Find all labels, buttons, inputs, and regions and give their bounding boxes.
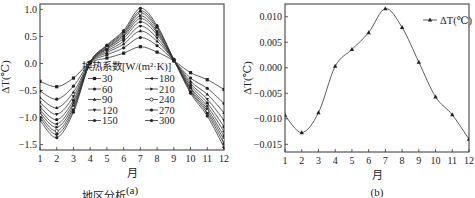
series-180 [38, 17, 225, 134]
marker-square [122, 52, 125, 55]
marker-triangle-left [55, 122, 58, 126]
marker-square [105, 56, 108, 59]
x-tick-label: 3 [71, 153, 76, 164]
legend-entry-label: 30 [102, 73, 113, 84]
y-tick-label: −0.015 [254, 139, 282, 150]
marker-dot [206, 87, 209, 90]
legend-entry-label: 270 [159, 105, 175, 116]
marker-triangle-left [138, 17, 141, 21]
x-tick-label: 8 [400, 155, 405, 166]
y-tick-label: 0.0 [25, 58, 38, 69]
x-tick-label: 6 [366, 155, 371, 166]
series-line [40, 16, 224, 136]
legend-entry-label: 210 [159, 84, 175, 95]
marker-dot [55, 98, 58, 101]
y-tick-label: −0.010 [254, 113, 282, 124]
x-tick-label: 8 [155, 153, 160, 164]
series-group [38, 7, 226, 149]
marker-dot [222, 146, 225, 149]
marker-dot [93, 87, 96, 90]
x-tick-label: 10 [431, 155, 441, 166]
series-line [285, 9, 469, 140]
x-tick-label: 4 [88, 153, 93, 164]
marker-dot [139, 36, 142, 39]
series-120 [38, 25, 226, 122]
y-axis-label: ΔT(℃) [0, 60, 12, 94]
marker-open-circle [55, 129, 58, 132]
marker-dot [189, 92, 192, 95]
figure: 1234567891011121.00.50.0−0.5−1.0−1.5月ΔT(… [0, 0, 475, 198]
legend-title: 换热系数[W/(m²·K)] [82, 60, 171, 73]
y-tick-label: 0.5 [25, 31, 38, 42]
marker-square [93, 77, 96, 80]
x-tick-label: 10 [186, 153, 196, 164]
x-tick-label: 9 [171, 153, 176, 164]
marker-square [72, 76, 75, 79]
series-line [40, 26, 224, 120]
series-300 [38, 7, 225, 149]
marker-dot [150, 108, 153, 111]
marker-square [139, 45, 142, 48]
marker-triangle [283, 113, 287, 117]
chart-panel-a: 1234567891011121.00.50.0−0.5−1.0−1.5月ΔT(… [0, 4, 229, 197]
marker-square [155, 51, 158, 54]
marker-dot [93, 119, 96, 122]
x-tick-label: 5 [104, 153, 109, 164]
marker-dot [206, 101, 209, 104]
y-tick-label: 0.005 [260, 37, 283, 48]
y-tick-label: −1.5 [19, 139, 37, 150]
y-tick-label: 0.000 [260, 62, 283, 73]
marker-triangle [383, 6, 387, 10]
legend-entry-label: 90 [102, 94, 113, 105]
legend-entry-label: 180 [159, 73, 175, 84]
marker-dot [150, 119, 153, 122]
marker-dot [139, 7, 142, 10]
series-line [40, 22, 224, 127]
marker-dot [206, 114, 209, 117]
marker-square [55, 85, 58, 88]
marker-dot [72, 85, 75, 88]
x-tick-label: 1 [283, 155, 288, 166]
y-tick-label: −1.0 [19, 112, 37, 123]
marker-dot [38, 89, 41, 92]
x-tick-label: 12 [219, 153, 229, 164]
marker-triangle-right [55, 126, 58, 130]
x-tick-label: 1 [38, 153, 43, 164]
x-tick-label: 9 [416, 155, 421, 166]
y-axis-label: ΔT(℃) [241, 61, 254, 95]
x-axis-label: 月 [372, 169, 383, 181]
x-tick-label: 7 [383, 155, 388, 166]
y-tick-label: 0.010 [260, 11, 283, 22]
marker-square [206, 78, 209, 81]
marker-dot [222, 102, 225, 105]
legend-entry-label: 60 [102, 84, 113, 95]
marker-dot [38, 119, 41, 122]
x-tick-label: 12 [464, 155, 474, 166]
marker-square [222, 88, 225, 91]
marker-triangle-right [150, 87, 153, 91]
x-axis-label: 月 [127, 167, 138, 179]
marker-dot [122, 46, 125, 49]
series-group [283, 6, 471, 141]
x-tick-label: 6 [121, 153, 126, 164]
marker-triangle-down [222, 119, 226, 122]
legend-a: 换热系数[W/(m²·K)]30609012015018021024027030… [82, 60, 175, 126]
marker-triangle [316, 110, 320, 114]
marker-square [38, 80, 41, 83]
panel-label: (a) [126, 184, 139, 197]
marker-dot [38, 105, 41, 108]
marker-triangle-left [150, 77, 153, 81]
marker-square [189, 71, 192, 74]
marker-dot [122, 29, 125, 32]
marker-dot [72, 111, 75, 114]
x-tick-label: 3 [316, 155, 321, 166]
marker-triangle [417, 60, 421, 64]
legend-entry-label: 300 [159, 115, 175, 126]
marker-dot [55, 118, 58, 121]
marker-triangle [333, 64, 337, 68]
marker-dot [139, 20, 142, 23]
panel-label: (b) [371, 186, 384, 198]
x-tick-label: 7 [138, 153, 143, 164]
x-tick-label: 4 [333, 155, 338, 166]
plot-frame [285, 4, 469, 152]
